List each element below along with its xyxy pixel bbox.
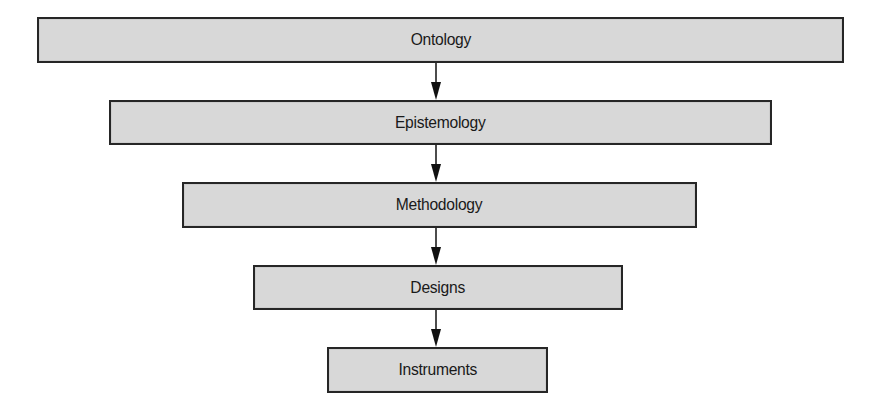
node-epistemology: Epistemology (109, 100, 772, 145)
node-instruments: Instruments (327, 347, 548, 393)
node-label: Methodology (396, 195, 483, 215)
arrow-methodology-to-designs (431, 228, 441, 265)
research-hierarchy-diagram: Ontology Epistemology Methodology Design… (0, 0, 870, 414)
node-methodology: Methodology (182, 182, 697, 228)
arrow-epistemology-to-methodology (431, 145, 441, 182)
arrow-ontology-to-epistemology (431, 63, 441, 100)
node-label: Instruments (398, 360, 477, 380)
node-designs: Designs (253, 265, 623, 310)
node-label: Designs (411, 278, 466, 298)
node-label: Ontology (410, 30, 470, 50)
node-ontology: Ontology (37, 17, 844, 63)
arrow-designs-to-instruments (431, 310, 441, 347)
node-label: Epistemology (395, 113, 486, 133)
